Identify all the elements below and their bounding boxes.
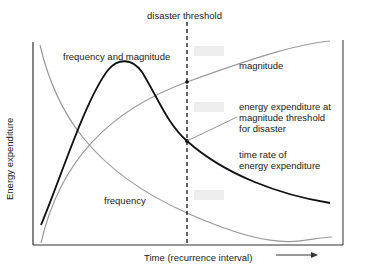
magnitude-label: magnitude	[239, 60, 283, 71]
x-axis-label: Time (recurrence interval)	[144, 252, 252, 263]
time-arrow-head	[311, 252, 318, 258]
frequency-and-magnitude-label: frequency and magnitude	[63, 51, 170, 62]
time-rate-annotation: time rate of energy expenditure	[239, 149, 320, 171]
frequency-curve	[40, 45, 332, 242]
energy-expenditure-diagram	[0, 0, 372, 276]
y-axis-label: Energy expenditure	[4, 118, 15, 200]
threshold-annotation: energy expenditure at magnitude threshol…	[239, 101, 331, 134]
faint-arrows	[194, 46, 224, 200]
disaster-threshold-label: disaster threshold	[147, 10, 222, 21]
magnitude-threshold-point	[185, 80, 189, 84]
annotation-leader-line	[187, 117, 237, 141]
frequency-label: frequency	[104, 195, 146, 206]
frequency-and-magnitude-curve	[41, 61, 330, 225]
